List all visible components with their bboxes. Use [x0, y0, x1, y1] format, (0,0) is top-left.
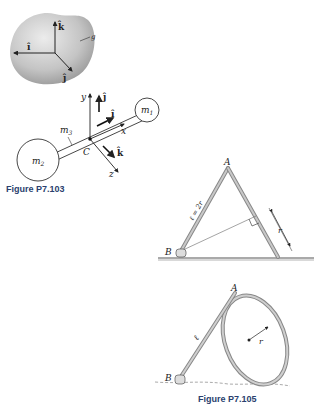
i-unit-arrow — [97, 118, 113, 126]
length-label: ℓ — [192, 333, 202, 341]
m3-leader — [68, 137, 72, 145]
point-a-label: A — [230, 283, 238, 293]
i-vector-label: î — [111, 109, 115, 119]
blob-figure: k̂ î ĵ g — [10, 13, 96, 84]
z-axis-label: z — [108, 169, 114, 179]
figure-caption-p7-103: Figure P7.103 — [6, 184, 65, 194]
dumbbell-figure: m2 m1 m3 y ĵ î x k̂ z C — [17, 92, 159, 181]
y-axis-label: y — [80, 92, 87, 102]
point-a-label: A — [223, 157, 231, 167]
j-vector-label: ĵ — [62, 73, 67, 83]
x-axis-label: x — [121, 126, 126, 136]
k-vector-label: k̂ — [117, 146, 124, 158]
point-c-label: C — [83, 147, 90, 157]
k-unit-arrow — [103, 146, 114, 157]
dimension-r-label: r — [278, 226, 283, 235]
z-axis — [90, 139, 118, 172]
i-vector-label: î — [27, 42, 31, 52]
point-b-label: B — [164, 247, 172, 257]
mass-m3-label: m3 — [60, 125, 73, 136]
rod-m3-bottom — [57, 120, 144, 160]
pin-support-b — [175, 375, 185, 384]
triangle-figure: r B A ℓ = 2r — [158, 157, 314, 260]
body-label: g — [91, 33, 96, 41]
pin-support-b — [176, 249, 186, 257]
k-vector-label: k̂ — [58, 20, 65, 32]
radius-label: r — [259, 337, 264, 346]
figure-caption-p7-105: Figure P7.105 — [198, 394, 257, 404]
loop-figure: r ℓ B A — [155, 283, 299, 393]
center-point-c — [88, 137, 92, 141]
rigid-body-blob — [10, 13, 95, 84]
point-b-label: B — [164, 373, 172, 383]
j-vector-label: ĵ — [102, 92, 107, 102]
